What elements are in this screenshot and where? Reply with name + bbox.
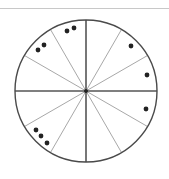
marker-dot bbox=[72, 26, 77, 31]
spoke-line bbox=[51, 91, 87, 152]
marker-dot bbox=[42, 43, 47, 48]
marker-dot bbox=[39, 134, 44, 139]
spoke-line bbox=[86, 91, 147, 127]
spoke-line bbox=[51, 30, 87, 91]
marker-dot bbox=[65, 29, 70, 34]
marker-dot bbox=[34, 128, 39, 133]
center-hub bbox=[84, 89, 88, 93]
marker-dot bbox=[129, 44, 134, 49]
marker-dot bbox=[45, 141, 50, 146]
marker-dot bbox=[144, 107, 149, 112]
spoke-line bbox=[86, 91, 122, 152]
dots-group bbox=[34, 26, 150, 146]
marker-dot bbox=[145, 73, 150, 78]
marker-dot bbox=[36, 48, 41, 53]
spoke-line bbox=[86, 30, 122, 91]
spoke-line bbox=[25, 91, 86, 127]
spoke-line bbox=[25, 56, 86, 92]
sector-wheel-diagram bbox=[0, 0, 169, 179]
spoke-line bbox=[86, 56, 147, 92]
